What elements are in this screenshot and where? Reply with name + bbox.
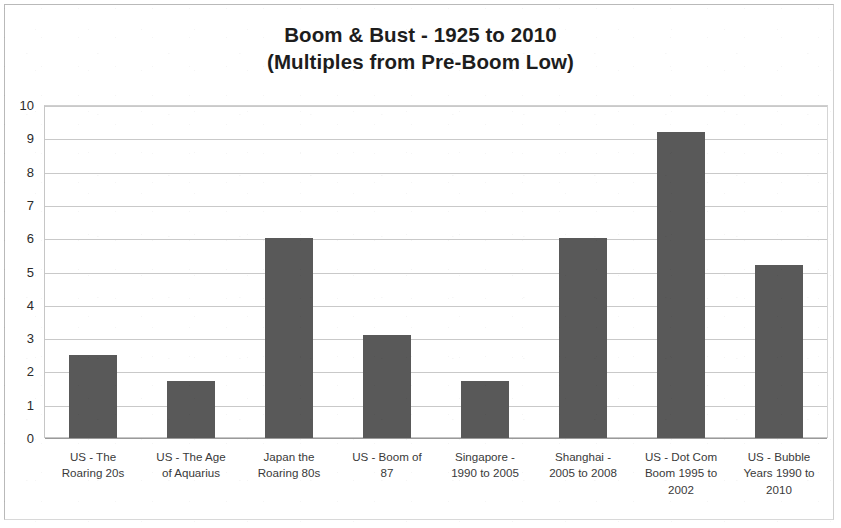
x-tick-label: US - The Ageof Aquarius <box>136 449 246 482</box>
x-label-line: 2002 <box>626 482 736 498</box>
y-tick-label-8: 8 <box>8 164 34 179</box>
x-tick-label: Japan theRoaring 80s <box>234 449 344 482</box>
x-label-line: Roaring 20s <box>38 465 148 481</box>
bar-slot <box>142 105 240 438</box>
bar <box>559 238 607 438</box>
y-tick-label-5: 5 <box>8 264 34 279</box>
x-label-line: Japan the <box>234 449 344 465</box>
bar-slot <box>632 105 730 438</box>
x-axis-category-labels: US - TheRoaring 20sUS - The Ageof Aquari… <box>44 449 828 519</box>
x-label-line: US - The <box>38 449 148 465</box>
x-label-line: 87 <box>332 465 442 481</box>
y-tick-label-3: 3 <box>8 331 34 346</box>
y-tick-label-10: 10 <box>8 98 34 113</box>
bar <box>657 132 705 438</box>
bar <box>167 381 215 438</box>
x-label-line: 2005 to 2008 <box>528 465 638 481</box>
bar-slot <box>44 105 142 438</box>
x-label-line: 1990 to 2005 <box>430 465 540 481</box>
bar <box>461 381 509 438</box>
chart-title: Boom & Bust - 1925 to 2010 (Multiples fr… <box>0 22 841 75</box>
bar <box>363 335 411 438</box>
chart-title-line-2: (Multiples from Pre-Boom Low) <box>0 49 841 76</box>
x-label-line: Boom 1995 to <box>626 465 736 481</box>
x-tick-label: US - Boom of87 <box>332 449 442 482</box>
bar <box>755 265 803 438</box>
x-label-line: of Aquarius <box>136 465 246 481</box>
x-tick-label: US - Dot ComBoom 1995 to2002 <box>626 449 736 498</box>
x-label-line: Shanghai - <box>528 449 638 465</box>
x-tick-label: Singapore -1990 to 2005 <box>430 449 540 482</box>
x-label-line: Roaring 80s <box>234 465 344 481</box>
x-label-line: US - The Age <box>136 449 246 465</box>
y-tick-label-1: 1 <box>8 397 34 412</box>
x-label-line: Singapore - <box>430 449 540 465</box>
bar-slot <box>436 105 534 438</box>
y-tick-label-9: 9 <box>8 131 34 146</box>
bar-slot <box>338 105 436 438</box>
bar-series <box>44 105 828 438</box>
bar <box>69 355 117 438</box>
x-label-line: 2010 <box>724 482 834 498</box>
x-tick-label: US - TheRoaring 20s <box>38 449 148 482</box>
x-label-line: US - Dot Com <box>626 449 736 465</box>
bar-slot <box>730 105 828 438</box>
y-tick-label-4: 4 <box>8 297 34 312</box>
x-tick-label: US - BubbleYears 1990 to2010 <box>724 449 834 498</box>
x-label-line: US - Bubble <box>724 449 834 465</box>
y-tick-label-6: 6 <box>8 231 34 246</box>
bar-slot <box>240 105 338 438</box>
bar-chart-figure: Boom & Bust - 1925 to 2010 (Multiples fr… <box>0 0 841 528</box>
bar-slot <box>534 105 632 438</box>
y-tick-label-0: 0 <box>8 431 34 446</box>
x-label-line: Years 1990 to <box>724 465 834 481</box>
y-tick-label-2: 2 <box>8 364 34 379</box>
chart-title-line-1: Boom & Bust - 1925 to 2010 <box>284 23 557 46</box>
bar <box>265 238 313 438</box>
y-tick-label-7: 7 <box>8 197 34 212</box>
x-tick-label: Shanghai -2005 to 2008 <box>528 449 638 482</box>
gridline-0 <box>45 438 827 439</box>
x-label-line: US - Boom of <box>332 449 442 465</box>
